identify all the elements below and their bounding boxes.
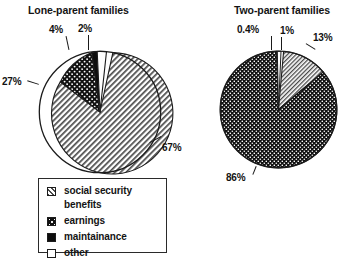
legend-item-maintainance[interactable]: maintainance: [47, 230, 162, 246]
label-lone-other: 2%: [78, 23, 92, 34]
label-lone-maintainance: 4%: [49, 24, 63, 35]
chart-title-lone-parent: Lone-parent families: [28, 4, 129, 16]
legend-label-line2: benefits: [64, 198, 132, 212]
legend-label-social-security-benefits: social security benefits: [64, 184, 132, 212]
pie-chart-figure: Lone-parent families 4% 2% 27% 67% Two-p…: [0, 0, 357, 261]
legend-item-social-security-benefits[interactable]: social security benefits: [47, 184, 162, 214]
label-two-other: 1%: [280, 25, 294, 36]
pie-chart-two-parent: [219, 50, 338, 169]
legend-swatch-social-security-benefits-icon: [47, 187, 56, 196]
legend-label-maintainance: maintainance: [64, 230, 127, 244]
legend-item-earnings[interactable]: earnings: [47, 214, 162, 230]
leader-line-two-other: [281, 37, 282, 50]
legend-item-other[interactable]: other: [47, 246, 162, 261]
legend: social security benefits earnings mainta…: [38, 178, 167, 253]
legend-swatch-earnings-icon: [47, 217, 56, 226]
leader-line-two-maintainance: [271, 36, 272, 50]
leader-line-lone-maintainance: [66, 36, 70, 50]
label-lone-earnings: 27%: [2, 76, 21, 87]
legend-swatch-maintainance-icon: [47, 233, 56, 242]
chart-title-two-parent: Two-parent families: [234, 4, 330, 16]
legend-label-line1: social security: [64, 185, 132, 196]
leader-line-lone-other: [88, 35, 89, 50]
label-two-social-security: 13%: [313, 32, 332, 43]
label-two-earnings: 86%: [226, 172, 245, 183]
legend-swatch-other-icon: [47, 249, 56, 258]
legend-label-other: other: [64, 246, 89, 260]
legend-label-earnings: earnings: [64, 214, 105, 228]
label-lone-social-security: 67%: [162, 142, 181, 153]
pie-chart-lone-parent: [38, 50, 162, 174]
label-two-maintainance: 0.4%: [237, 24, 259, 35]
